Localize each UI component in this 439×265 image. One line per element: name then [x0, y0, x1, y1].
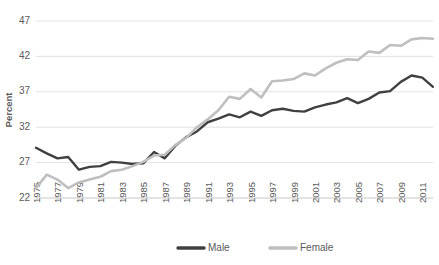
y-axis-tick-label: 22 [19, 192, 31, 203]
x-axis-tick-label: 1993 [224, 182, 235, 203]
x-axis-tick-label: 1997 [267, 182, 278, 203]
x-axis-tick-label: 1989 [181, 182, 192, 203]
chart-legend: MaleFemale [178, 242, 334, 253]
x-axis-tick-label: 1981 [95, 182, 106, 203]
x-axis-tick-label: 2003 [331, 182, 342, 203]
legend-label-male: Male [208, 242, 230, 253]
series-line-male [36, 76, 433, 170]
x-axis-tick-label: 1987 [160, 182, 171, 203]
x-axis-tick-labels: 1975197719791981198319851987198919911993… [31, 182, 428, 203]
y-axis-tick-label: 42 [19, 50, 31, 61]
x-axis-tick-label: 1991 [203, 182, 214, 203]
x-axis-tick-label: 2005 [353, 182, 364, 203]
x-axis-tick-label: 1985 [138, 182, 149, 203]
y-axis-title: Percent [3, 92, 14, 128]
x-axis-tick-label: 1995 [246, 182, 257, 203]
data-series [36, 38, 433, 188]
x-axis-tick-label: 1977 [52, 182, 63, 203]
legend-label-female: Female [300, 242, 334, 253]
y-axis-tick-label: 27 [19, 156, 31, 167]
x-axis-tick-label: 1975 [31, 182, 42, 203]
chart-canvas: 222732374247 197519771979198119831985198… [0, 0, 439, 265]
y-axis-tick-labels: 222732374247 [19, 15, 31, 203]
x-axis-tick-label: 1983 [117, 182, 128, 203]
y-axis-tick-label: 37 [19, 85, 31, 96]
gridlines [36, 21, 433, 198]
x-axis-tick-label: 2007 [374, 182, 385, 203]
x-axis-tick-label: 2001 [310, 182, 321, 203]
x-axis-tick-label: 2009 [396, 182, 407, 203]
x-axis-tick-label: 1999 [289, 182, 300, 203]
y-axis-tick-label: 32 [19, 121, 31, 132]
line-chart: 222732374247 197519771979198119831985198… [0, 0, 439, 265]
x-axis-tick-label: 2011 [417, 183, 428, 203]
y-axis-tick-label: 47 [19, 15, 31, 26]
y-axis-title-label: Percent [3, 92, 14, 128]
